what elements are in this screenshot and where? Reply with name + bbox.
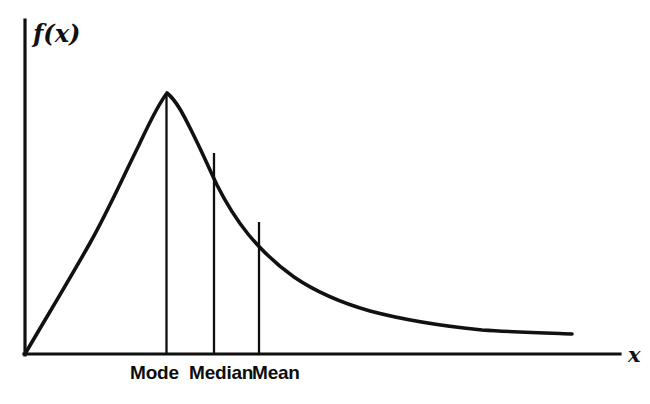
- y-axis-label: f(x): [31, 19, 80, 48]
- x-axis-label: x: [627, 342, 641, 367]
- chart-background: [0, 0, 650, 404]
- skewed-distribution-chart: f(x) x Mode Median Mean: [0, 0, 650, 404]
- mean-label: Mean: [252, 362, 300, 383]
- mode-label: Mode: [130, 362, 179, 383]
- figure-container: f(x) x Mode Median Mean: [0, 0, 650, 404]
- median-label: Median: [189, 362, 253, 383]
